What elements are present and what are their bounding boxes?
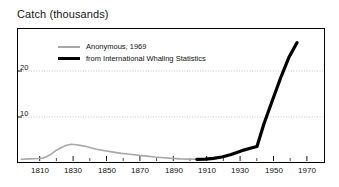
chart-legend: Anonymous, 1969 from International Whali…	[58, 41, 258, 65]
x-tick-label-1930: 1930	[231, 166, 249, 175]
legend-item-international-whaling-statistics: from International Whaling Statistics	[58, 53, 258, 64]
chart-title: Catch (thousands)	[17, 8, 109, 21]
x-tick-label-1870: 1870	[131, 166, 149, 175]
legend-item-anonymous-1969: Anonymous, 1969	[58, 41, 258, 52]
series-line-anonymous-1969	[21, 144, 197, 159]
x-tick-label-1850: 1850	[98, 166, 116, 175]
x-tick-label-1970: 1970	[298, 166, 316, 175]
y-tick-label-10: 10	[20, 110, 28, 118]
x-tick-label-1830: 1830	[64, 166, 82, 175]
x-tick-label-1950: 1950	[265, 166, 283, 175]
x-tick-label-1810: 1810	[31, 166, 49, 175]
y-tick-label-20: 20	[20, 64, 28, 72]
x-tick-label-1910: 1910	[198, 166, 216, 175]
legend-label-anonymous-1969: Anonymous, 1969	[86, 42, 146, 51]
legend-swatch-gray-line-icon	[58, 46, 80, 48]
x-tick-label-1890: 1890	[165, 166, 183, 175]
legend-swatch-black-line-icon	[58, 57, 80, 60]
chart-figure: Catch (thousands)	[0, 0, 339, 187]
legend-label-international-whaling-statistics: from International Whaling Statistics	[86, 54, 206, 63]
